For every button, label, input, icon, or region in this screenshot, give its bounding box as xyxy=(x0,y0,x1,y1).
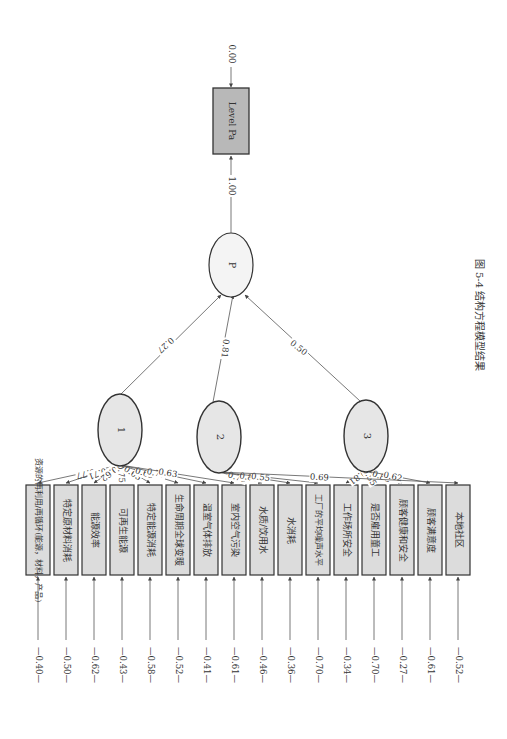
error-value: —0.61— xyxy=(426,647,436,683)
indicator-label: 可再生能源 xyxy=(118,508,129,553)
indicator-label: 顾客满意度 xyxy=(426,508,437,553)
error-value: —0.70— xyxy=(370,647,380,683)
p-label: P xyxy=(227,262,237,268)
level-error-value: 0.00 xyxy=(227,45,237,64)
indicator-label: 资源的再利用/再循环(能源，材料，产品) xyxy=(34,458,44,603)
error-value: —0.50— xyxy=(62,647,72,683)
indicator-label: 本地社区 xyxy=(454,512,465,548)
error-value: —0.46— xyxy=(258,647,268,683)
indicator-label: 工厂的平均噪声水平 xyxy=(314,494,324,566)
indicator-label: 生命周期全球变暖 xyxy=(174,494,185,566)
indicator-label: 能源效率 xyxy=(90,512,101,548)
error-value: —0.58— xyxy=(146,647,156,683)
indicator-label: 特定能源消耗 xyxy=(146,503,157,557)
level-pa-label: Level Pa xyxy=(227,102,237,141)
error-value: —0.62— xyxy=(90,647,100,683)
error-value: —0.61— xyxy=(230,647,240,683)
p-to-level-coefficient: 1.00 xyxy=(227,177,237,196)
diagram-canvas: 资源的再利用/再循环(能源，材料，产品)—0.40—0.77特定原材料消耗—0.… xyxy=(0,0,507,739)
indicator-label: 水消耗 xyxy=(286,517,297,544)
indicator-label: 工作场所安全 xyxy=(342,503,353,557)
error-value: —0.52— xyxy=(454,647,464,683)
indicator-label: 室内空气污染 xyxy=(230,503,241,557)
indicator-label: 特定原材料消耗 xyxy=(62,499,73,562)
error-value: —0.40— xyxy=(34,647,44,683)
indicator-label: 水质/饮用水 xyxy=(258,506,269,554)
error-value: —0.41— xyxy=(202,647,212,683)
error-value: —0.27— xyxy=(398,647,408,683)
error-value: —0.36— xyxy=(286,647,296,683)
loading-value: 0.69 xyxy=(310,471,329,482)
indicator-label: 顾客健康和安全 xyxy=(398,499,409,562)
sem-diagram: 资源的再利用/再循环(能源，材料，产品)—0.40—0.77特定原材料消耗—0.… xyxy=(0,0,507,739)
indicator-label: 是否雇用童工 xyxy=(370,503,381,557)
latent-label: 3 xyxy=(362,433,373,439)
latent-label: 1 xyxy=(116,427,127,433)
latent-label: 2 xyxy=(215,434,226,440)
error-value: —0.34— xyxy=(342,647,352,683)
error-value: —0.52— xyxy=(174,647,184,683)
error-value: —0.43— xyxy=(118,647,128,683)
structural-coefficient: 0.81 xyxy=(219,339,231,359)
figure-caption: 图 5-4 结构方程模型结果 xyxy=(474,259,486,371)
error-value: —0.70— xyxy=(314,647,324,683)
indicator-label: 温室气体排放 xyxy=(202,503,213,557)
